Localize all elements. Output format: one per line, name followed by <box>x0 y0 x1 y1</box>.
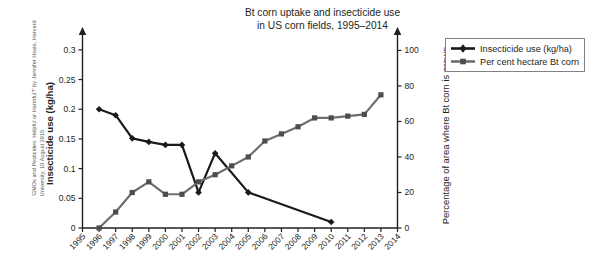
x-tick-label: 2009 <box>299 231 319 251</box>
y-tick-label: 0.25 <box>59 75 76 85</box>
series-marker <box>162 142 169 149</box>
series-marker <box>246 154 251 159</box>
series-marker <box>163 192 168 197</box>
y-tick-label: 0 <box>71 223 76 233</box>
y2-tick-label: 0 <box>405 223 410 233</box>
y-tick-label: 0.3 <box>64 45 76 55</box>
x-tick-label: 2007 <box>266 231 286 251</box>
y2-tick-label: 20 <box>405 187 415 197</box>
series-marker <box>328 219 335 226</box>
x-tick-label: 1996 <box>84 231 104 251</box>
series-marker <box>146 139 153 146</box>
x-tick-label: 2008 <box>283 231 303 251</box>
y-tick-label: 0.1 <box>64 164 76 174</box>
series-marker <box>345 114 350 119</box>
x-tick-label: 1998 <box>117 231 137 251</box>
series-marker <box>378 92 383 97</box>
y2-tick-label: 100 <box>405 45 420 55</box>
chart-figure: 'GMOs and Pesticides: Helpful or Harmful… <box>0 0 605 275</box>
series-marker <box>213 172 218 177</box>
y-tick-label: 0.15 <box>59 134 76 144</box>
series-marker <box>195 189 202 196</box>
series-marker <box>329 115 334 120</box>
y-axis-arrow-icon <box>79 27 87 35</box>
series-marker <box>113 209 118 214</box>
series-marker <box>262 138 267 143</box>
series-marker <box>179 142 186 149</box>
x-tick-label: 2001 <box>167 231 187 251</box>
chart-plot-area: 00.050.10.150.20.250.3020406080100199519… <box>0 0 605 275</box>
x-tick-label: 2000 <box>150 231 170 251</box>
x-tick-label: 1995 <box>67 231 87 251</box>
series-marker <box>179 192 184 197</box>
series-marker <box>279 131 284 136</box>
series-marker <box>146 179 151 184</box>
x-tick-label: 2005 <box>233 231 253 251</box>
y2-tick-label: 40 <box>405 152 415 162</box>
series-marker <box>229 163 234 168</box>
x-tick-label: 2002 <box>183 231 203 251</box>
x-tick-label: 1997 <box>100 231 120 251</box>
x-tick-label: 2004 <box>216 231 236 251</box>
series-marker <box>362 112 367 117</box>
y2-tick-label: 80 <box>405 81 415 91</box>
x-tick-label: 2003 <box>200 231 220 251</box>
x-tick-label: 2014 <box>382 231 402 251</box>
x-tick-label: 1999 <box>133 231 153 251</box>
series-line-btcorn <box>99 95 381 228</box>
series-marker <box>96 106 103 113</box>
x-tick-label: 2012 <box>349 231 369 251</box>
x-tick-label: 2010 <box>316 231 336 251</box>
series-marker <box>295 124 300 129</box>
series-marker <box>130 190 135 195</box>
x-tick-label: 2011 <box>333 231 353 251</box>
y2-axis-arrow-icon <box>394 27 402 35</box>
x-tick-label: 2006 <box>250 231 270 251</box>
y2-tick-label: 60 <box>405 116 415 126</box>
y-tick-label: 0.05 <box>59 193 76 203</box>
series-marker <box>96 225 101 230</box>
y-tick-label: 0.2 <box>64 104 76 114</box>
x-tick-label: 2013 <box>366 231 386 251</box>
series-marker <box>196 179 201 184</box>
series-marker <box>312 115 317 120</box>
